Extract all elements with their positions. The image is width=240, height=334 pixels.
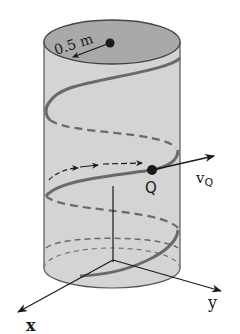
- velocity-label: vQ: [195, 169, 213, 189]
- helix-cylinder-diagram: 0.5 m Q vQ x y: [0, 0, 240, 334]
- point-q-label: Q: [145, 179, 157, 197]
- top-center-dot: [106, 39, 115, 48]
- y-axis-label: y: [207, 293, 217, 312]
- velocity-label-subscript: Q: [204, 176, 213, 189]
- x-axis-label: x: [26, 316, 36, 334]
